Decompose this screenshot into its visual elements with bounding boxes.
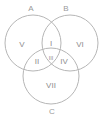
region-label-vi: VI: [76, 40, 84, 49]
circle-set-a: [5, 15, 61, 71]
region-label-v: V: [19, 40, 25, 49]
set-label-a: A: [28, 4, 34, 13]
set-label-b: B: [63, 4, 68, 13]
region-label-vii: VII: [46, 81, 56, 90]
region-label-iv: IV: [60, 57, 68, 66]
venn-diagram-canvas: A B C I II III IV V VI VII: [0, 0, 103, 120]
region-label-iii: III: [49, 55, 54, 61]
region-label-i: I: [50, 39, 52, 48]
venn-diagram: A B C I II III IV V VI VII: [0, 0, 103, 120]
region-label-ii: II: [35, 57, 39, 66]
set-label-c: C: [49, 107, 55, 116]
